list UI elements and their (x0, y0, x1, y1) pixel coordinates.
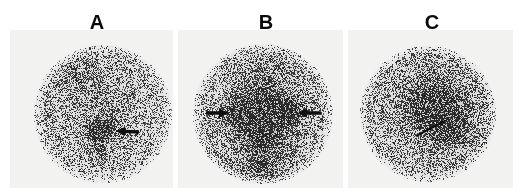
panel-label-a: A (77, 12, 117, 32)
panel-label-b: B (246, 12, 286, 32)
scintigram-image-b (178, 30, 343, 188)
scintigram-panel-c (348, 30, 513, 188)
scintigram-image-c (348, 30, 513, 188)
scintigraphy-figure: A B C (0, 0, 523, 194)
scintigram-panel-b (178, 30, 343, 188)
panel-label-c: C (412, 12, 452, 32)
scintigram-image-a (10, 30, 173, 188)
scintigram-panel-a (10, 30, 173, 188)
